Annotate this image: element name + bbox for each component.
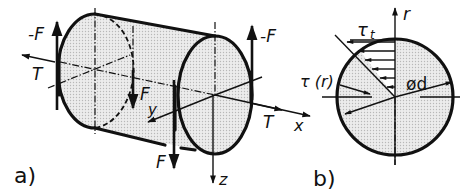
label-force-bottom: F xyxy=(156,152,166,172)
panel-a-tag: a) xyxy=(14,163,36,188)
right-torque-arrow[interactable] xyxy=(250,103,282,110)
label-force-y-sub: y xyxy=(147,101,158,119)
label-tau-r: τ (r) xyxy=(300,72,334,91)
label-torque-right: T xyxy=(263,112,275,132)
label-axis-x: x xyxy=(293,116,304,135)
label-tau-t: τ xyxy=(357,19,368,40)
label-diameter: ød xyxy=(406,74,427,94)
cylinder-bottom-edge-right xyxy=(181,148,195,150)
panel-b-tag: b) xyxy=(313,166,336,191)
label-axis-r: r xyxy=(403,4,411,24)
label-axis-z: z xyxy=(218,170,228,189)
panel-b-cross-section: r τ t τ (r) ød b) xyxy=(300,4,460,191)
label-neg-force-left: -F xyxy=(28,24,44,44)
left-torque-arrow[interactable] xyxy=(22,55,55,62)
torsion-diagram: -F T F y F -F T x z a) xyxy=(0,0,474,194)
label-neg-force-right: -F xyxy=(260,26,276,46)
label-torque-left: T xyxy=(32,64,44,84)
panel-a-cylinder: -F T F y F -F T x z a) xyxy=(14,8,310,189)
